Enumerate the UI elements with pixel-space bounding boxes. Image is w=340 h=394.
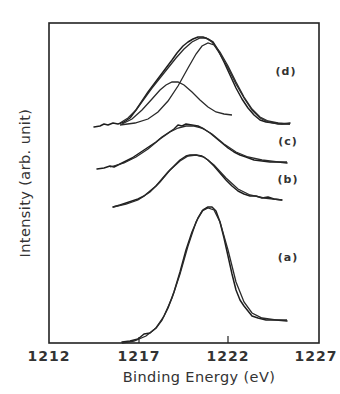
series-label-c: (c) — [278, 135, 298, 148]
x-axis-label: Binding Energy (eV) — [123, 369, 276, 385]
series-label-a: (a) — [278, 251, 298, 264]
xps-spectra-chart: 1212 1217 1222 1227 Binding Energy (eV) … — [0, 0, 340, 394]
series-b — [113, 155, 282, 207]
series-b-fit — [113, 155, 282, 207]
y-axis-label: Intensity (arb. unit) — [17, 109, 33, 258]
series-d — [94, 37, 290, 127]
x-tick-labels: 1212 1217 1222 1227 — [28, 348, 338, 364]
series-a-data — [122, 207, 287, 342]
series-label-d: (d) — [276, 65, 297, 78]
series-d-data — [94, 37, 290, 127]
tick-label-1217: 1217 — [118, 348, 161, 364]
series-a-fit — [122, 208, 287, 343]
tick-label-1212: 1212 — [28, 348, 71, 364]
series-d-component-2 — [120, 43, 290, 125]
x-axis-ticks — [139, 336, 228, 343]
series-a — [122, 207, 287, 343]
series-c — [97, 124, 287, 169]
series-d-fit-sum — [120, 38, 290, 124]
series-label-b: (b) — [278, 173, 299, 186]
tick-label-1222: 1222 — [207, 348, 250, 364]
tick-label-1227: 1227 — [295, 348, 338, 364]
